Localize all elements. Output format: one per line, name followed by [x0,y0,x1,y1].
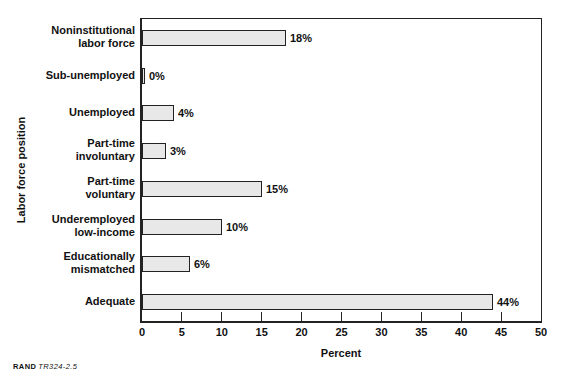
x-tick-label: 20 [295,326,307,338]
category-label: Underemployed low-income [0,213,135,239]
category-label: Noninstitutional labor force [0,24,135,50]
x-tick-mark [301,312,302,321]
bar-value-label: 6% [194,258,210,270]
plot-area: 18%0%4%3%15%10%6%44% [140,18,542,323]
source-brand: RAND [13,362,36,371]
x-tick-label: 40 [455,326,467,338]
x-tick-mark [501,312,502,321]
figure: Labor force position 18%0%4%3%15%10%6%44… [0,0,574,383]
category-label: Sub-unemployed [0,68,135,81]
bar-value-label: 0% [149,70,165,82]
x-tick-label: 10 [216,326,228,338]
x-tick-mark [221,312,222,321]
bar [142,294,493,310]
bar [142,181,262,197]
bar-value-label: 15% [266,183,288,195]
bar-value-label: 3% [170,145,186,157]
bar [142,143,166,159]
category-label: Adequate [0,295,135,308]
bar [142,219,222,235]
bar-value-label: 18% [290,32,312,44]
bar [142,105,174,121]
bar [142,30,286,46]
category-label: Educationally mismatched [0,250,135,276]
x-tick-label: 35 [415,326,427,338]
x-tick-mark [341,312,342,321]
x-tick-label: 5 [179,326,185,338]
y-axis-title: Labor force position [15,117,27,223]
x-tick-mark [181,312,182,321]
x-tick-label: 15 [256,326,268,338]
x-tick-label: 25 [335,326,347,338]
x-tick-mark [421,312,422,321]
category-label: Part-time involuntary [0,137,135,163]
x-tick-label: 30 [375,326,387,338]
bars-layer: 18%0%4%3%15%10%6%44% [142,19,541,321]
x-tick-label: 0 [139,326,145,338]
category-label: Unemployed [0,106,135,119]
x-tick-label: 45 [495,326,507,338]
x-tick-mark [461,312,462,321]
x-tick-mark [261,312,262,321]
source-figure-id: TR324-2.5 [38,362,77,371]
x-tick-label: 50 [535,326,547,338]
bar [142,256,190,272]
bar [142,68,145,84]
source-note: RANDTR324-2.5 [13,362,77,371]
x-tick-mark [381,312,382,321]
bar-value-label: 4% [178,107,194,119]
x-axis-title: Percent [321,347,361,359]
bar-value-label: 10% [226,221,248,233]
bar-value-label: 44% [497,296,519,308]
category-label: Part-time voluntary [0,175,135,201]
